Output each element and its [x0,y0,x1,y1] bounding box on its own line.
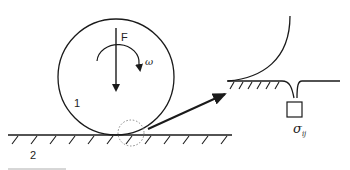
diagram-canvas: F ω 1 2 σij [0,0,350,170]
stress-label: σij [293,121,307,138]
rotation-arrow-icon [97,45,140,70]
body-2-label: 2 [30,149,36,161]
stress-element-box [287,102,302,117]
angular-velocity-label: ω [145,56,153,67]
force-label: F [121,31,128,43]
magnified-contact-detail [227,16,340,98]
body-1-label: 1 [74,97,80,109]
magnification-arrow [148,94,225,129]
